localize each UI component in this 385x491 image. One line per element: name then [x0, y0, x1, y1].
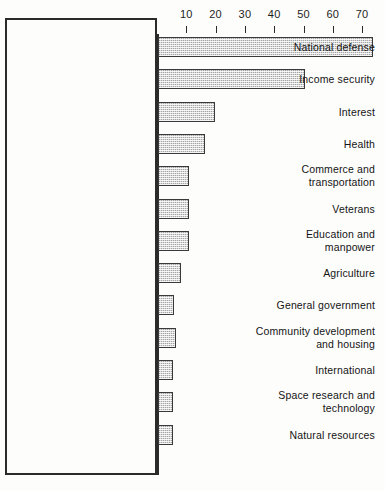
category-label: Health — [344, 137, 375, 150]
bar — [158, 199, 189, 219]
axis-tick-mark-10 — [186, 26, 187, 33]
axis-tick-mark-40 — [274, 26, 275, 33]
category-label: International — [315, 364, 375, 377]
bar — [158, 392, 173, 412]
category-label: National defense — [294, 41, 375, 54]
bar — [158, 328, 176, 348]
category-label: Education and manpower — [306, 228, 375, 254]
bar — [158, 295, 174, 315]
category-label: General government — [277, 299, 375, 312]
category-label-box — [5, 18, 157, 475]
category-label: Commerce and transportation — [301, 163, 375, 189]
category-label: Community development and housing — [256, 325, 375, 351]
bar — [158, 102, 215, 122]
category-label: Natural resources — [290, 428, 375, 441]
axis-tick-mark-50 — [304, 26, 305, 33]
axis-tick-label: 30 — [239, 8, 252, 20]
axis-tick-label: 40 — [268, 8, 281, 20]
bar — [158, 425, 173, 445]
bar — [158, 166, 189, 186]
category-label: Space research and technology — [278, 389, 375, 415]
axis-tick-mark-30 — [245, 26, 246, 33]
bar — [158, 263, 181, 283]
bar-chart: 10203040506070 National defenseIncome se… — [0, 0, 385, 491]
bar — [158, 134, 205, 154]
bar — [158, 69, 305, 89]
axis-tick-label: 10 — [180, 8, 193, 20]
axis-tick-label: 60 — [326, 8, 339, 20]
axis-tick-label: 50 — [297, 8, 310, 20]
axis-tick-mark-20 — [216, 26, 217, 33]
bar — [158, 231, 189, 251]
category-label: Veterans — [332, 202, 375, 215]
axis-tick-label: 20 — [209, 8, 222, 20]
axis-tick-mark-60 — [333, 26, 334, 33]
bar — [158, 360, 173, 380]
axis-tick-mark-70 — [362, 26, 363, 33]
axis-tick-label: 70 — [356, 8, 369, 20]
category-label: Income security — [299, 73, 375, 86]
category-label: Interest — [339, 105, 375, 118]
category-label: Agriculture — [323, 267, 375, 280]
